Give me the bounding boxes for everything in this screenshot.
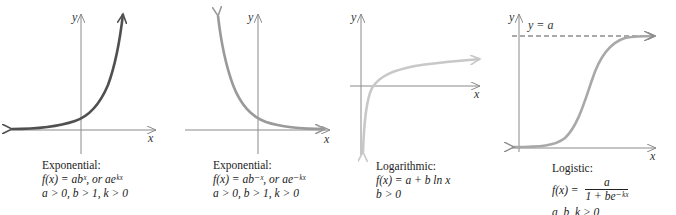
- caption-title: Logarithmic:: [376, 159, 450, 173]
- caption-formula: f(x) = a 1 + be⁻ᵏˣ: [552, 176, 628, 203]
- caption-conditions: a, b, k > 0: [552, 205, 628, 215]
- caption-title: Logistic:: [552, 161, 628, 175]
- x-axis-label: x: [473, 87, 480, 101]
- exponential-growth-curve: [12, 14, 123, 129]
- caption-conditions: a > 0, b > 1, k > 0: [213, 186, 306, 200]
- caption-exponential-growth: Exponential: f(x) = abˣ, or aeᵏˣ a > 0, …: [42, 158, 128, 200]
- fraction: a 1 + be⁻ᵏˣ: [585, 176, 628, 203]
- caption-conditions: a > 0, b > 1, k > 0: [42, 186, 128, 200]
- x-axis-label: x: [323, 132, 330, 146]
- graph-logistic: y y = a x: [508, 10, 656, 163]
- numerator: a: [585, 176, 628, 190]
- caption-title: Exponential:: [42, 158, 128, 172]
- asymptote-label: y = a: [527, 18, 553, 32]
- x-axis-label: x: [649, 149, 656, 163]
- y-axis-label: y: [247, 10, 254, 24]
- denominator: 1 + be⁻ᵏˣ: [585, 190, 628, 203]
- x-axis-label: x: [147, 131, 154, 145]
- graph-logarithmic: y x: [350, 10, 480, 155]
- caption-formula: f(x) = ab⁻ˣ, or ae⁻ᵏˣ: [213, 172, 306, 186]
- graph-exponential-growth: y x: [10, 10, 156, 154]
- graph-exponential-decay: y x: [185, 10, 330, 154]
- caption-title: Exponential:: [213, 158, 306, 172]
- y-axis-label: y: [71, 10, 78, 24]
- logistic-curve: [514, 36, 654, 147]
- caption-conditions: b > 0: [376, 187, 450, 201]
- caption-logarithmic: Logarithmic: f(x) = a + b ln x b > 0: [376, 159, 450, 201]
- caption-formula: f(x) = abˣ, or aeᵏˣ: [42, 172, 128, 186]
- caption-formula: f(x) = a + b ln x: [376, 173, 450, 187]
- logarithmic-curve: [363, 59, 480, 152]
- caption-logistic: Logistic: f(x) = a 1 + be⁻ᵏˣ a, b, k > 0: [552, 161, 628, 215]
- caption-exponential-decay: Exponential: f(x) = ab⁻ˣ, or ae⁻ᵏˣ a > 0…: [213, 158, 306, 200]
- y-axis-label: y: [350, 10, 357, 24]
- y-axis-label: y: [508, 10, 515, 24]
- exponential-decay-curve: [218, 16, 325, 129]
